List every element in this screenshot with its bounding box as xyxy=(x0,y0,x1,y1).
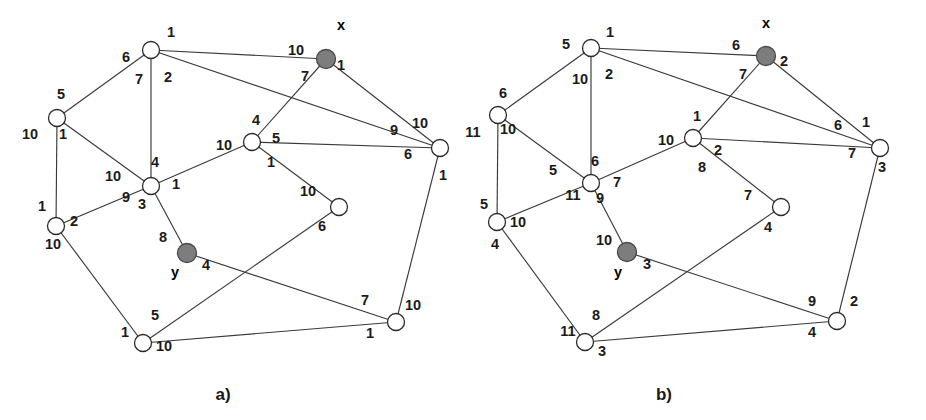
graph-edge xyxy=(591,48,880,148)
panel-caption-a: a) xyxy=(215,385,230,404)
edge-weight-label: 1 xyxy=(862,114,870,130)
edge-weight-label: 1 xyxy=(267,154,275,170)
edge-weight-label: 4 xyxy=(151,154,159,170)
edge-weight-label: 2 xyxy=(70,213,78,229)
edge-weight-label: 6 xyxy=(318,218,326,234)
edge-weight-label: 1 xyxy=(606,24,614,40)
node-layer: xy xyxy=(489,15,889,351)
graph-node-highlighted[interactable] xyxy=(317,50,336,69)
graph-node[interactable] xyxy=(489,214,506,231)
node-tag-y: y xyxy=(614,264,622,280)
edge-weight-label: 10 xyxy=(572,71,588,87)
edge-layer xyxy=(56,50,440,343)
edge-weight-label: 10 xyxy=(500,121,516,137)
edge-weight-label: 7 xyxy=(848,145,856,161)
node-tag-y: y xyxy=(171,264,179,280)
edge-weight-label: 4 xyxy=(808,324,816,340)
graph-edge xyxy=(396,148,440,322)
edge-weight-label: 10 xyxy=(45,236,61,252)
graph-edge xyxy=(252,59,326,142)
graph-node[interactable] xyxy=(829,313,846,330)
graph-edge xyxy=(585,321,837,342)
edge-weight-label: 10 xyxy=(105,168,121,184)
graph-edge xyxy=(693,56,766,138)
edge-weight-label: 9 xyxy=(390,122,398,138)
edge-weight-label: 3 xyxy=(878,159,886,175)
edge-weight-label: 10 xyxy=(22,126,38,142)
weight-layer: 1672510110174510191061410193121010684511… xyxy=(22,24,447,354)
node-tag-x: x xyxy=(762,15,770,31)
edge-weight-label: 7 xyxy=(301,68,309,84)
graph-edge xyxy=(252,142,339,207)
edge-weight-label: 1 xyxy=(121,324,129,340)
graph-node[interactable] xyxy=(244,134,261,151)
edge-weight-label: 10 xyxy=(596,232,612,248)
graph-edge xyxy=(591,138,693,183)
edge-weight-label: 1 xyxy=(337,57,345,73)
edge-weight-label: 8 xyxy=(592,307,600,323)
edge-weight-label: 11 xyxy=(565,187,580,203)
graph-edge xyxy=(837,148,880,321)
graph-edge xyxy=(143,322,396,343)
edge-weight-label: 4 xyxy=(252,112,260,128)
edge-weight-label: 10 xyxy=(405,297,421,313)
graph-edge xyxy=(151,142,252,186)
edge-weight-label: 6 xyxy=(591,153,599,169)
graph-node-highlighted[interactable] xyxy=(618,243,637,262)
edge-weight-label: 9 xyxy=(808,293,816,309)
edge-weight-label: 6 xyxy=(122,49,130,65)
edge-weight-label: 10 xyxy=(288,42,304,58)
edge-weight-label: 3 xyxy=(138,196,146,212)
graph-edge xyxy=(56,118,57,226)
edge-weight-label: 6 xyxy=(834,117,842,133)
graph-edge xyxy=(497,115,498,222)
edge-weight-label: 5 xyxy=(549,162,557,178)
edge-weight-label: 9 xyxy=(122,189,130,205)
graph-edge xyxy=(766,56,880,148)
edge-layer xyxy=(497,48,880,342)
graph-node[interactable] xyxy=(577,334,594,351)
edge-weight-label: 7 xyxy=(744,187,752,203)
edge-weight-label: 10 xyxy=(216,137,232,153)
edge-weight-label: 8 xyxy=(159,229,167,245)
graph-node[interactable] xyxy=(331,199,348,216)
edge-weight-label: 2 xyxy=(850,293,858,309)
graph-node-highlighted[interactable] xyxy=(757,47,776,66)
graph-canvas: xy16725101101745101910614101931210106845… xyxy=(0,0,926,420)
graph-node[interactable] xyxy=(583,175,600,192)
edge-weight-label: 5 xyxy=(272,130,280,146)
graph-node[interactable] xyxy=(135,335,152,352)
edge-weight-label: 4 xyxy=(764,219,772,235)
edge-weight-label: 8 xyxy=(698,159,706,175)
graph-node[interactable] xyxy=(388,314,405,331)
edge-weight-label: 7 xyxy=(739,66,747,82)
edge-weight-label: 10 xyxy=(510,214,526,230)
graph-panel-b: xy15102611106271102861735671195104741038… xyxy=(465,15,888,404)
edge-weight-label: 2 xyxy=(605,66,613,82)
graph-node[interactable] xyxy=(48,218,65,235)
edge-weight-label: 5 xyxy=(57,86,65,102)
edge-weight-label: 6 xyxy=(404,146,412,162)
edge-weight-label: 5 xyxy=(562,36,570,52)
edge-weight-label: 2 xyxy=(780,53,788,69)
edge-weight-label: 1 xyxy=(38,198,46,214)
graph-node[interactable] xyxy=(49,110,66,127)
graph-node-highlighted[interactable] xyxy=(178,244,197,263)
graph-node[interactable] xyxy=(143,178,160,195)
edge-weight-label: 4 xyxy=(491,236,499,252)
edge-weight-label: 2 xyxy=(714,142,722,158)
graph-node[interactable] xyxy=(773,199,790,216)
graph-node[interactable] xyxy=(143,42,160,59)
panel-caption-b: b) xyxy=(656,385,672,404)
edge-weight-label: 1 xyxy=(167,24,175,40)
graph-node[interactable] xyxy=(685,130,702,147)
node-tag-x: x xyxy=(337,17,345,33)
graph-node[interactable] xyxy=(432,140,449,157)
edge-weight-label: 9 xyxy=(596,190,604,206)
graph-node[interactable] xyxy=(872,140,889,157)
graph-edge xyxy=(151,186,187,253)
weight-layer: 1510261110627110286173567119510474103811… xyxy=(465,24,886,359)
edge-weight-label: 1 xyxy=(59,126,67,142)
graph-node[interactable] xyxy=(583,40,600,57)
edge-weight-label: 7 xyxy=(361,292,369,308)
